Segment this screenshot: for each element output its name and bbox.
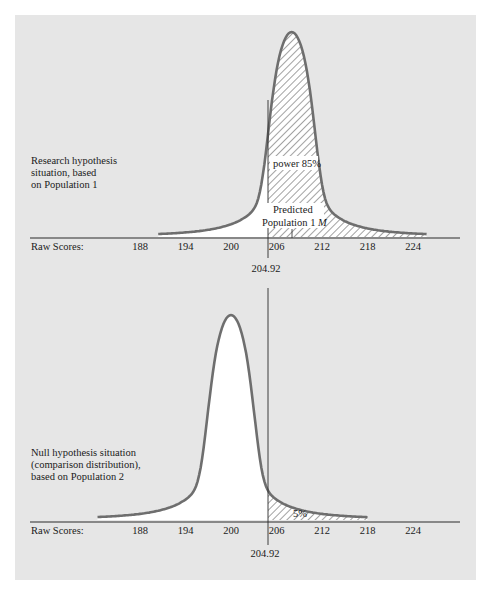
tick-label: 224 [405,241,422,252]
power-diagram: power 85% Predicted Population 1 M Raw S… [0,0,488,594]
top-cutoff-label: 204.92 [252,263,281,274]
tick-label: 218 [360,525,376,536]
power-label: power 85% [273,158,321,169]
research-hypothesis-chart: power 85% Predicted Population 1 M Raw S… [30,32,460,274]
predicted-label-line2: Population 1 M [262,217,328,228]
tick-label: 200 [223,525,239,536]
alpha-label: 5% [293,508,307,519]
tick-label: 206 [269,241,285,252]
bottom-tick-labels: 188194200206212218224 [132,525,422,536]
predicted-label-line1: Predicted [273,204,313,215]
tick-label: 188 [132,525,148,536]
bottom-unshaded-area [98,315,368,520]
tick-label: 194 [178,241,195,252]
bottom-axis-label: Raw Scores: [31,525,84,536]
tick-label: 188 [132,241,148,252]
top-axis-label: Raw Scores: [31,241,84,252]
top-tick-labels: 188194200206212218224 [132,241,422,252]
null-hypothesis-chart: 5% Raw Scores: 188194200206212218224 204… [30,288,460,559]
tick-label: 206 [269,525,285,536]
tick-label: 212 [314,241,330,252]
research-hypothesis-description: Research hypothesis situation, based on … [31,155,117,191]
tick-label: 200 [223,241,239,252]
tick-label: 212 [314,525,330,536]
bottom-cutoff-label: 204.92 [251,548,280,559]
tick-label: 224 [405,525,422,536]
tick-label: 194 [178,525,195,536]
null-hypothesis-description: Null hypothesis situation (comparison di… [31,447,141,483]
tick-label: 218 [360,241,376,252]
